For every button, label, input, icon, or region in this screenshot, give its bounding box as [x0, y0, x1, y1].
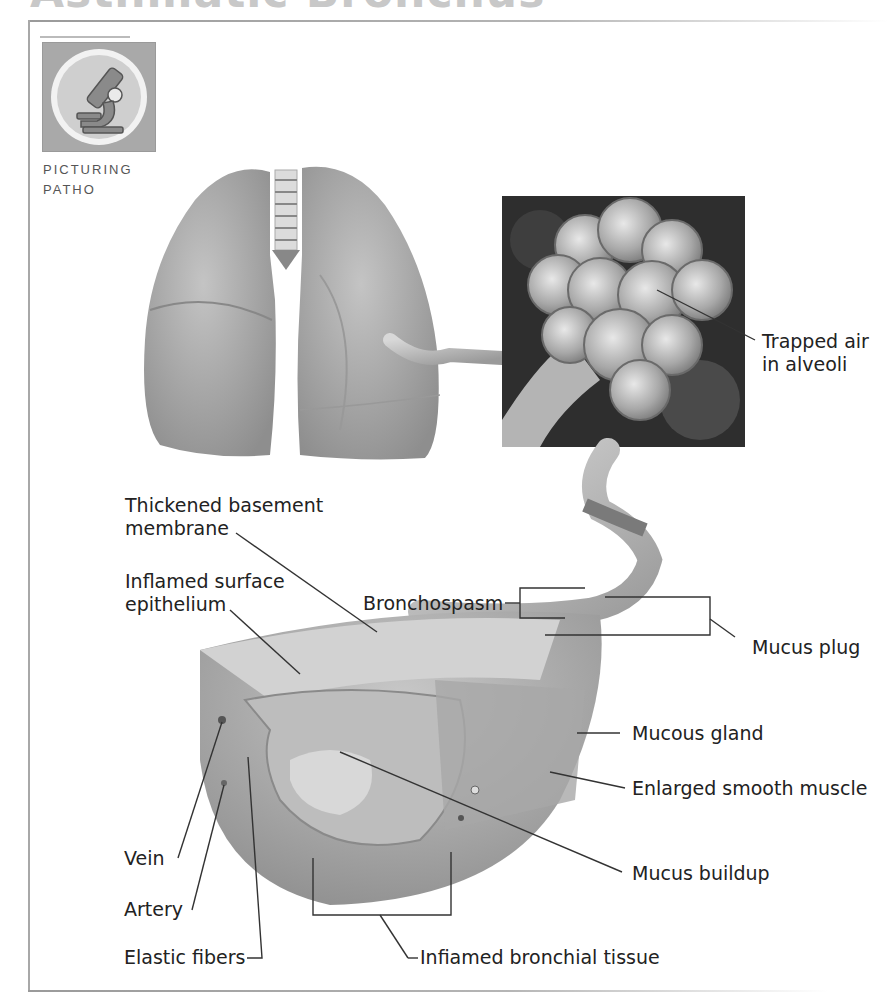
label-inflamed-surface-line1: Inflamed surface: [125, 570, 285, 593]
label-elastic-fibers: Elastic fibers: [124, 946, 245, 969]
bronchus-cross-section: [200, 612, 602, 905]
label-thickened-line2: membrane: [125, 517, 323, 540]
label-vein: Vein: [124, 847, 165, 870]
lungs-illustration: [144, 167, 502, 460]
label-thickened-line1: Thickened basement: [125, 494, 323, 517]
label-mucus-plug: Mucus plug: [752, 636, 860, 659]
label-mucus-buildup: Mucus buildup: [632, 862, 770, 885]
label-inflamed-surface-epithelium: Inflamed surface epithelium: [125, 570, 285, 616]
label-inflamed-surface-line2: epithelium: [125, 593, 285, 616]
label-bronchospasm: Bronchospasm: [363, 592, 503, 615]
label-trapped-air: Trapped air in alveoli: [762, 330, 869, 376]
label-thickened-basement-membrane: Thickened basement membrane: [125, 494, 323, 540]
label-inflamed-bronchial-tissue: Infiamed bronchial tissue: [420, 946, 660, 969]
label-artery: Artery: [124, 898, 183, 921]
label-trapped-air-line1: Trapped air: [762, 330, 869, 353]
label-mucous-gland: Mucous gland: [632, 722, 764, 745]
label-trapped-air-line2: in alveoli: [762, 353, 869, 376]
alveoli-closeup: [502, 196, 745, 447]
label-enlarged-smooth-muscle: Enlarged smooth muscle: [632, 777, 867, 800]
bronchus-tube: [420, 450, 650, 616]
